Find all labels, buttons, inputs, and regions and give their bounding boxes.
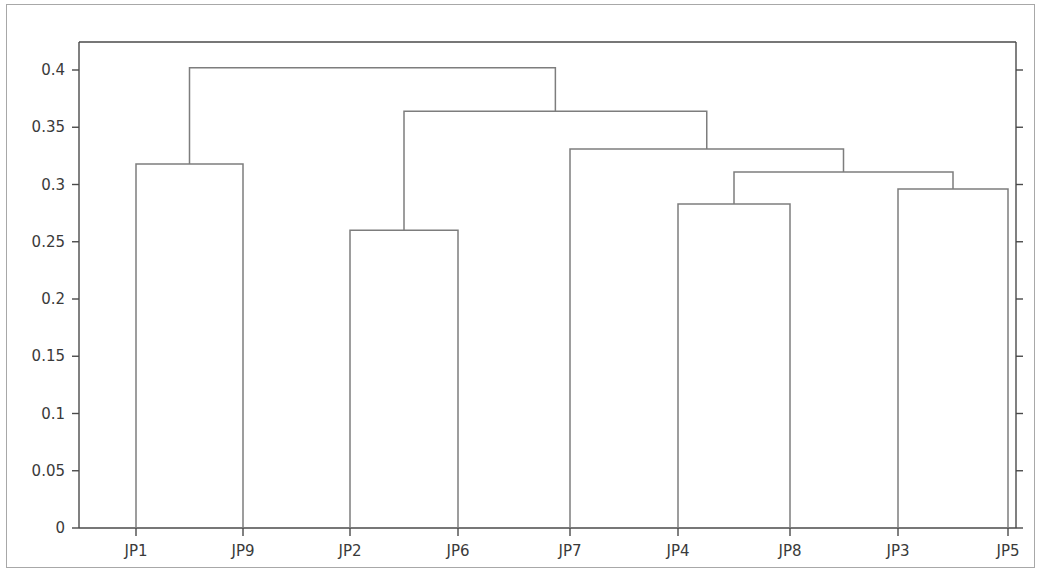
dendrogram-link-root [190,68,556,164]
y-tick-label: 0.35 [32,118,65,136]
dendrogram-plot: 00.050.10.150.20.250.30.350.4 JP1JP9JP2J… [0,0,1042,576]
x-tick-label-jp8: JP8 [777,542,801,560]
y-tick-label: 0.4 [41,61,65,79]
x-tick-label-jp4: JP4 [665,542,689,560]
dendrogram-figure: 00.050.10.150.20.250.30.350.4 JP1JP9JP2J… [0,0,1042,576]
dendrogram-link-jp4-jp8 [678,204,790,528]
y-tick-label: 0.2 [41,290,65,308]
x-axis [79,528,1016,536]
y-tick-label: 0.15 [32,347,65,365]
x-tick-label-jp5: JP5 [995,542,1019,560]
y-axis [72,42,1023,528]
x-tick-label-jp1: JP1 [123,542,147,560]
x-tick-label-jp9: JP9 [230,542,254,560]
x-tick-label-jp7: JP7 [557,542,581,560]
x-tick-label-jp2: JP2 [337,542,361,560]
dendrogram-links [136,68,1008,528]
y-tick-label: 0.1 [41,405,65,423]
y-tick-labels: 00.050.10.150.20.250.30.350.4 [32,61,65,537]
dendrogram-link-jp3-jp5 [898,189,1008,528]
x-tick-labels: JP1JP9JP2JP6JP7JP4JP8JP3JP5 [123,542,1019,560]
dendrogram-link-jp4jp8-jp3jp5 [734,172,953,204]
dendrogram-link-jp2-jp6 [350,230,458,528]
y-tick-label: 0.05 [32,462,65,480]
y-tick-label: 0.25 [32,233,65,251]
y-tick-label: 0 [55,519,65,537]
x-tick-label-jp6: JP6 [445,542,469,560]
dendrogram-link-jp7-cluster [570,149,844,528]
dendrogram-link-jp2jp6-jp7cluster [404,111,707,230]
y-tick-label: 0.3 [41,176,65,194]
dendrogram-link-jp1-jp9 [136,164,243,528]
x-tick-label-jp3: JP3 [885,542,909,560]
